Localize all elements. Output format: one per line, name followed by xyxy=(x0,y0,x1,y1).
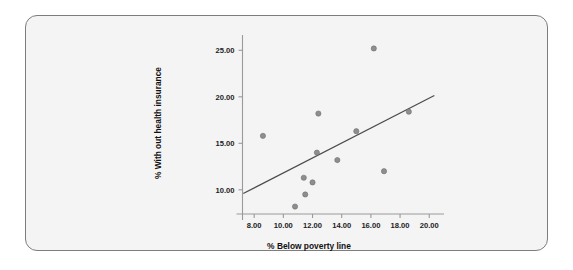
data-point xyxy=(314,150,319,155)
data-point xyxy=(260,133,265,138)
y-axis-title: % With out health insurance xyxy=(153,67,163,179)
data-point xyxy=(301,175,306,180)
data-point xyxy=(381,169,386,174)
x-tick-label: 8.00 xyxy=(247,221,262,230)
x-axis-ticks: 8.0010.0012.0014.0016.0018.0020.00 xyxy=(247,214,439,230)
data-point xyxy=(310,180,315,185)
data-point xyxy=(406,109,411,114)
scatter-plot: 8.0010.0012.0014.0016.0018.0020.00 10.00… xyxy=(26,16,549,252)
data-point xyxy=(292,204,297,209)
data-point xyxy=(316,111,321,116)
plot-svg: 8.0010.0012.0014.0016.0018.0020.00 10.00… xyxy=(26,16,549,252)
data-point xyxy=(354,129,359,134)
regression-line xyxy=(243,95,434,193)
x-tick-label: 10.00 xyxy=(274,221,293,230)
y-tick-label: 15.00 xyxy=(215,139,234,148)
axes xyxy=(237,35,445,220)
x-tick-label: 18.00 xyxy=(391,221,410,230)
data-point xyxy=(303,192,308,197)
y-tick-label: 25.00 xyxy=(215,46,234,55)
data-point xyxy=(335,157,340,162)
fit-line xyxy=(243,95,434,193)
x-tick-label: 12.00 xyxy=(303,221,322,230)
x-tick-label: 20.00 xyxy=(420,221,439,230)
x-axis-title: % Below poverty line xyxy=(267,241,351,251)
x-tick-label: 16.00 xyxy=(361,221,380,230)
y-tick-label: 10.00 xyxy=(215,186,234,195)
figure-card: 8.0010.0012.0014.0016.0018.0020.00 10.00… xyxy=(25,15,548,251)
x-tick-label: 14.00 xyxy=(332,221,351,230)
y-tick-label: 20.00 xyxy=(215,93,234,102)
data-points xyxy=(260,46,411,209)
data-point xyxy=(371,46,376,51)
y-axis-ticks: 10.0015.0020.0025.00 xyxy=(215,46,242,195)
